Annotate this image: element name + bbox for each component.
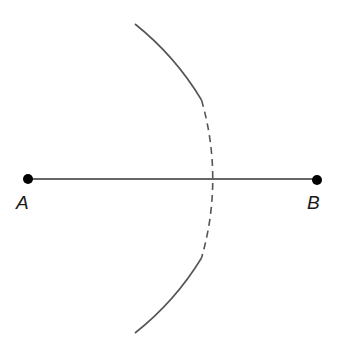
point-a xyxy=(23,174,33,184)
arc-upper-solid xyxy=(135,24,202,100)
point-b xyxy=(312,175,322,185)
arc-lower-solid xyxy=(135,258,202,333)
label-a: A xyxy=(15,192,29,213)
label-b: B xyxy=(307,192,320,213)
diagram-canvas: A B xyxy=(0,0,344,358)
